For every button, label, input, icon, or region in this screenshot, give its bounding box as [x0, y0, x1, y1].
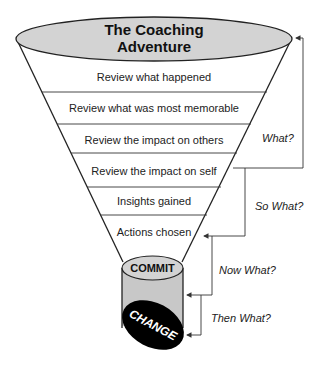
question-so-what: So What?: [255, 200, 304, 212]
coaching-funnel-diagram: The Coaching Adventure Review what happe…: [0, 0, 318, 371]
stage-label: Actions chosen: [117, 226, 192, 238]
title-line-1: The Coaching: [104, 21, 203, 38]
stage-label: Review the impact on others: [85, 134, 224, 146]
question-now-what: Now What?: [219, 264, 277, 276]
title-ellipse: The Coaching Adventure: [16, 17, 292, 61]
question-what: What?: [262, 132, 295, 144]
question-then-what: Then What?: [211, 312, 272, 324]
then-what-arrow: [187, 295, 201, 335]
stage-label: Insights gained: [117, 195, 191, 207]
stage-label: Review what happened: [97, 71, 211, 83]
commit-label: COMMIT: [130, 262, 175, 274]
title-line-2: Adventure: [117, 38, 191, 55]
commit-change-cylinder: COMMIT CHANGE: [114, 256, 193, 360]
stage-label: Review the impact on self: [91, 165, 217, 177]
stage-label: Review what was most memorable: [69, 102, 239, 114]
